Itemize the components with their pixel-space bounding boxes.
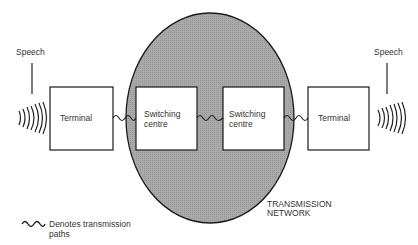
switching-centre-1-label: Switching centre [144,109,180,129]
switching-centre-2-line2: centre [229,119,265,129]
switching-centre-2-line1: Switching [229,109,265,119]
transmission-network-label: TRANSMISSION NETWORK [267,200,332,218]
terminal-left-label: Terminal [60,113,92,123]
switching-centre-2-label: Switching centre [229,109,265,129]
sound-waves-right-icon [378,102,406,134]
wavy-line-legend-icon [22,222,45,227]
speech-left-label: Speech [16,47,45,57]
legend-text: Denotes transmission paths [49,219,131,239]
legend-text-line2: paths [49,229,131,239]
legend-text-line1: Denotes transmission [49,219,131,229]
switching-centre-1-line1: Switching [144,109,180,119]
terminal-right-label: Terminal [318,113,350,123]
switching-centre-1-line2: centre [144,119,180,129]
sound-waves-left-icon [19,102,47,134]
speech-right-label: Speech [374,47,403,57]
network-label-line2: NETWORK [267,209,332,218]
